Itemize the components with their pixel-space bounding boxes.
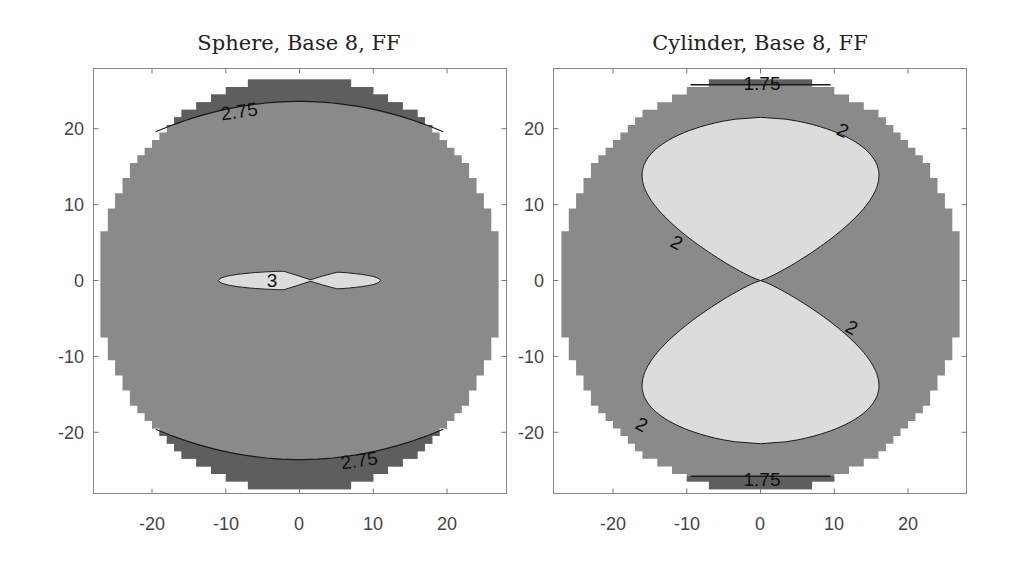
sphere-panel: Sphere, Base 8, FF 3 2.75 2.75 -20 -10 0… bbox=[58, 31, 521, 534]
svg-text:20: 20 bbox=[64, 119, 84, 139]
svg-text:-20: -20 bbox=[600, 514, 626, 534]
contour-label-3: 3 bbox=[267, 270, 278, 291]
svg-text:-20: -20 bbox=[518, 423, 544, 443]
svg-text:-10: -10 bbox=[213, 514, 239, 534]
svg-text:20: 20 bbox=[524, 119, 544, 139]
svg-text:10: 10 bbox=[524, 195, 544, 215]
svg-text:-20: -20 bbox=[58, 423, 84, 443]
svg-text:-10: -10 bbox=[518, 347, 544, 367]
figure: Sphere, Base 8, FF 3 2.75 2.75 -20 -10 0… bbox=[0, 0, 1013, 562]
svg-text:10: 10 bbox=[64, 195, 84, 215]
contour-label-1.75-bottom: 1.75 bbox=[744, 469, 781, 490]
cylinder-panel: Cylinder, Base 8, FF 1.75 1.75 2 2 2 2 -… bbox=[518, 31, 982, 534]
svg-text:-20: -20 bbox=[139, 514, 165, 534]
svg-text:10: 10 bbox=[824, 514, 844, 534]
svg-text:0: 0 bbox=[534, 271, 544, 291]
contour-label-1.75-top: 1.75 bbox=[744, 73, 781, 94]
cylinder-ytick-labels: 20 10 0 -10 -20 bbox=[518, 119, 544, 443]
sphere-ytick-labels: 20 10 0 -10 -20 bbox=[58, 119, 84, 443]
cylinder-xtick-labels: -20 -10 0 10 20 bbox=[600, 514, 918, 534]
svg-text:-10: -10 bbox=[674, 514, 700, 534]
cylinder-title: Cylinder, Base 8, FF bbox=[652, 31, 868, 55]
svg-text:0: 0 bbox=[755, 514, 765, 534]
svg-text:0: 0 bbox=[74, 271, 84, 291]
sphere-title: Sphere, Base 8, FF bbox=[197, 31, 400, 55]
sphere-xtick-labels: -20 -10 0 10 20 bbox=[139, 514, 457, 534]
svg-text:20: 20 bbox=[898, 514, 918, 534]
svg-text:10: 10 bbox=[363, 514, 383, 534]
svg-text:20: 20 bbox=[437, 514, 457, 534]
svg-text:-10: -10 bbox=[58, 347, 84, 367]
svg-text:0: 0 bbox=[294, 514, 304, 534]
